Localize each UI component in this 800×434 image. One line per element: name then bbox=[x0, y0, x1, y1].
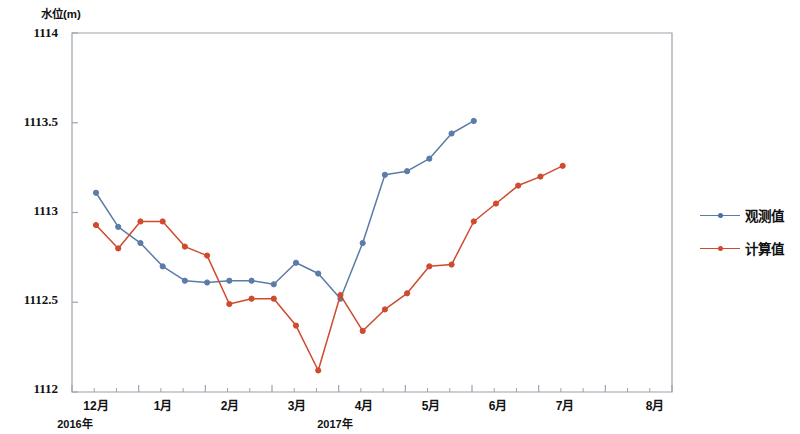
chart-series bbox=[93, 118, 565, 373]
line-chart-plot bbox=[0, 0, 800, 434]
